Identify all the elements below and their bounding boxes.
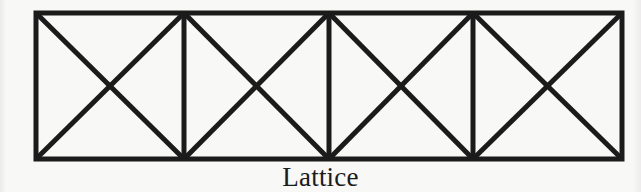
vertical-post-group — [184, 13, 473, 159]
lattice-truss-figure: Lattice — [0, 0, 641, 192]
caption-layer: Lattice — [0, 162, 641, 192]
figure-caption: Lattice — [282, 162, 358, 192]
